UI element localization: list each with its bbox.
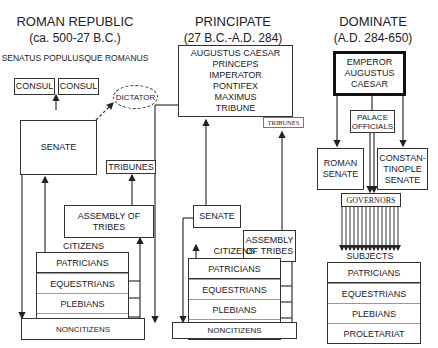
ruler-line: PONTIFEX bbox=[213, 81, 258, 92]
republic-consul-2: CONSUL bbox=[58, 78, 99, 95]
dominate-palace-officials: PALACE OFFICIALS bbox=[350, 110, 395, 133]
class-plebians: PLEBIANS bbox=[37, 293, 128, 313]
class-patricians: PATRICIANS bbox=[189, 259, 280, 279]
class-patricians: PATRICIANS bbox=[328, 263, 420, 283]
dominate-governors: GOVERNORS bbox=[341, 193, 401, 207]
ruler-line: MAXIMUS bbox=[214, 92, 256, 103]
ruler-line: TRIBUNE bbox=[216, 103, 256, 114]
dominate-constantinople-senate: CONSTAN-TINOPLE SENATE bbox=[377, 148, 428, 190]
dominate-roman-senate: ROMAN SENATE bbox=[317, 148, 364, 190]
republic-senate: SENATE bbox=[20, 120, 97, 175]
class-plebians: PLEBIANS bbox=[189, 299, 280, 319]
class-proletariat: PROLETARIAT bbox=[328, 323, 420, 343]
class-equestrians: EQUESTRIANS bbox=[189, 279, 280, 299]
dominate-emperor: EMPEROR AUGUSTUS CAESAR bbox=[333, 51, 406, 96]
dominate-dates: (A.D. 284-650) bbox=[318, 31, 428, 45]
dominate-subjects-label: SUBJECTS bbox=[330, 251, 410, 261]
ruler-line: IMPERATOR bbox=[209, 70, 262, 81]
class-equestrians: EQUESTRIANS bbox=[37, 273, 128, 293]
republic-assembly: ASSEMBLY OF TRIBES bbox=[64, 205, 154, 238]
republic-motto: SENATUS POPULUSQUE ROMANUS bbox=[0, 53, 150, 63]
class-equestrians: EQUESTRIANS bbox=[328, 283, 420, 303]
dominate-title: DOMINATE bbox=[318, 14, 428, 30]
principate-senate: SENATE bbox=[193, 205, 241, 228]
republic-consul-1: CONSUL bbox=[14, 78, 55, 95]
republic-title: ROMAN REPUBLIC bbox=[0, 14, 150, 30]
republic-dates: (ca. 500-27 B.C.) bbox=[0, 31, 150, 45]
governor-arrows bbox=[342, 206, 398, 250]
ruler-line: PRINCEPS bbox=[212, 59, 258, 70]
principate-citizens-label: CITIZENS bbox=[188, 246, 280, 256]
principate-ruler-box: AUGUSTUS CAESAR PRINCEPS IMPERATOR PONTI… bbox=[178, 45, 293, 117]
dominate-class-strata: PATRICIANS EQUESTRIANS PLEBIANS PROLETAR… bbox=[327, 262, 421, 344]
principate-title: PRINCIPATE bbox=[178, 14, 288, 30]
republic-dictator: DICTATOR bbox=[113, 85, 158, 109]
class-plebians: PLEBIANS bbox=[328, 303, 420, 323]
principate-dates: (27 B.C.-A.D. 284) bbox=[178, 31, 288, 45]
ruler-line: AUGUSTUS CAESAR bbox=[191, 48, 281, 59]
principate-tribunes: TRIBUNES bbox=[263, 117, 304, 128]
principate-noncitizens: NONCITIZENS bbox=[172, 322, 297, 339]
class-patricians: PATRICIANS bbox=[37, 253, 128, 273]
republic-citizens-label: CITIZENS bbox=[36, 241, 131, 251]
republic-tribunes: TRIBUNES bbox=[106, 160, 156, 174]
republic-noncitizens: NONCITIZENS bbox=[21, 318, 145, 340]
